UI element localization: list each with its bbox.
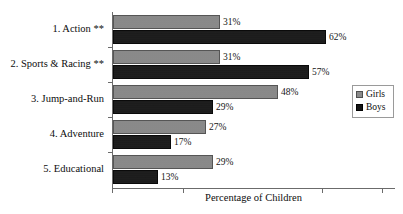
bar-boys-5 (113, 170, 158, 184)
bar-value-girls-3: 48% (281, 85, 298, 99)
bar-boys-3 (113, 100, 213, 114)
bar-value-girls-4: 27% (209, 120, 226, 134)
legend-swatch-boys-icon (356, 104, 363, 111)
category-label-3: 3. Jump-and-Run (0, 94, 104, 105)
legend-label-boys: Boys (366, 103, 386, 113)
y-axis-tick-2 (108, 82, 113, 83)
bar-girls-4 (113, 120, 206, 134)
bar-value-boys-3: 29% (216, 100, 233, 114)
bar-value-boys-4: 17% (174, 135, 191, 149)
bar-girls-1 (113, 15, 220, 29)
chart-legend: Girls Boys (352, 85, 394, 118)
y-axis-tick-4 (108, 152, 113, 153)
bar-girls-3 (113, 85, 278, 99)
bar-chart: 1. Action ** 2. Sports & Racing ** 3. Ju… (0, 0, 403, 214)
category-axis-labels: 1. Action ** 2. Sports & Racing ** 3. Ju… (0, 12, 108, 189)
bar-value-boys-1: 62% (329, 30, 346, 44)
bar-value-boys-5: 13% (161, 170, 178, 184)
category-label-2: 2. Sports & Racing ** (0, 59, 104, 70)
bar-value-girls-2: 31% (223, 50, 240, 64)
x-axis-line (112, 188, 395, 189)
bar-girls-2 (113, 50, 220, 64)
bar-boys-4 (113, 135, 171, 149)
category-label-1: 1. Action ** (0, 24, 104, 35)
bar-value-girls-5: 29% (216, 155, 233, 169)
bar-value-boys-2: 57% (312, 65, 329, 79)
y-axis-tick-3 (108, 117, 113, 118)
legend-entry-girls: Girls (356, 88, 393, 101)
legend-label-girls: Girls (366, 90, 385, 100)
bar-boys-2 (113, 65, 309, 79)
bar-girls-5 (113, 155, 213, 169)
bar-boys-1 (113, 30, 326, 44)
x-axis-title: Percentage of Children (112, 192, 395, 203)
legend-entry-boys: Boys (356, 101, 393, 114)
legend-swatch-girls-icon (356, 91, 363, 98)
y-axis-tick-1 (108, 47, 113, 48)
category-label-4: 4. Adventure (0, 129, 104, 140)
bar-value-girls-1: 31% (223, 15, 240, 29)
category-label-5: 5. Educational (0, 164, 104, 175)
